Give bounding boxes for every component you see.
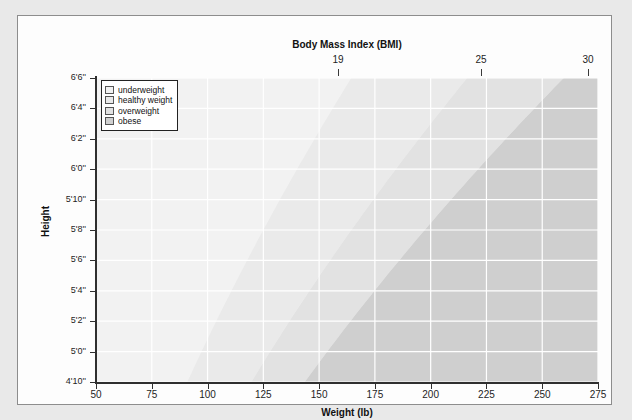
y-tick-label: 5'10'' bbox=[18, 194, 86, 204]
top-tick-mark bbox=[338, 69, 339, 76]
top-tick-label: 25 bbox=[475, 54, 486, 65]
x-tick-label: 100 bbox=[199, 389, 216, 400]
legend-label: obese bbox=[118, 116, 141, 126]
y-tick-label: 4'10'' bbox=[18, 376, 86, 386]
top-tick-mark bbox=[588, 69, 589, 76]
legend-swatch-obese bbox=[105, 117, 114, 125]
y-tick-mark bbox=[90, 169, 95, 170]
legend-label: healthy weight bbox=[118, 95, 172, 105]
x-tick-label: 150 bbox=[311, 389, 328, 400]
y-tick-label: 5'6'' bbox=[18, 254, 86, 264]
legend-swatch-overweight bbox=[105, 107, 114, 115]
top-tick-mark bbox=[481, 69, 482, 76]
legend-item: healthy weight bbox=[105, 95, 172, 105]
y-tick-label: 6'6'' bbox=[18, 72, 86, 82]
top-tick-label: 30 bbox=[582, 54, 593, 65]
y-tick-label: 5'0'' bbox=[18, 346, 86, 356]
legend-label: overweight bbox=[118, 106, 159, 116]
legend: underweighthealthy weightoverweightobese bbox=[101, 80, 178, 131]
y-tick-label: 5'8'' bbox=[18, 224, 86, 234]
y-axis-line bbox=[95, 76, 97, 384]
y-tick-mark bbox=[90, 291, 95, 292]
legend-swatch-underweight bbox=[105, 86, 114, 94]
y-axis-title: Height bbox=[40, 192, 51, 252]
legend-item: underweight bbox=[105, 85, 172, 95]
y-tick-mark bbox=[90, 78, 95, 79]
legend-item: obese bbox=[105, 116, 172, 126]
x-tick-label: 200 bbox=[422, 389, 439, 400]
y-tick-mark bbox=[90, 321, 95, 322]
y-tick-mark bbox=[90, 108, 95, 109]
x-axis-title: Weight (lb) bbox=[96, 407, 598, 418]
y-tick-mark bbox=[90, 260, 95, 261]
x-tick-label: 175 bbox=[367, 389, 384, 400]
y-tick-label: 6'4'' bbox=[18, 102, 86, 112]
legend-item: overweight bbox=[105, 106, 172, 116]
y-tick-label: 6'2'' bbox=[18, 133, 86, 143]
legend-swatch-healthy-weight bbox=[105, 96, 114, 104]
chart-card: Body Mass Index (BMI) 192530 6'6''6'4''6… bbox=[17, 15, 612, 405]
x-tick-label: 250 bbox=[534, 389, 551, 400]
top-axis-title: Body Mass Index (BMI) bbox=[96, 39, 598, 50]
y-tick-mark bbox=[90, 230, 95, 231]
y-tick-label: 5'4'' bbox=[18, 285, 86, 295]
x-tick-label: 225 bbox=[478, 389, 495, 400]
y-tick-label: 6'0'' bbox=[18, 163, 86, 173]
y-tick-mark bbox=[90, 139, 95, 140]
legend-label: underweight bbox=[118, 85, 164, 95]
x-tick-label: 125 bbox=[255, 389, 272, 400]
x-tick-label: 50 bbox=[90, 389, 101, 400]
y-tick-label: 5'2'' bbox=[18, 315, 86, 325]
y-tick-mark bbox=[90, 352, 95, 353]
top-tick-label: 19 bbox=[332, 54, 343, 65]
x-tick-label: 275 bbox=[590, 389, 607, 400]
y-tick-mark bbox=[90, 382, 95, 383]
x-axis-line bbox=[95, 382, 599, 384]
y-tick-mark bbox=[90, 200, 95, 201]
x-tick-label: 75 bbox=[146, 389, 157, 400]
bmi-chart-page: Body Mass Index (BMI) 192530 6'6''6'4''6… bbox=[0, 0, 632, 420]
